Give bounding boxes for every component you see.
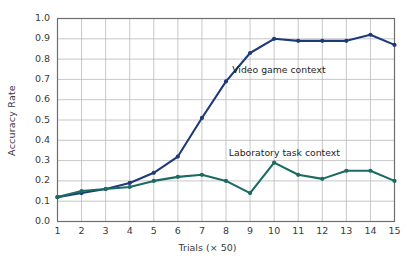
x-tick-label: 7 xyxy=(191,225,213,236)
x-tick-label: 8 xyxy=(215,225,237,236)
y-tick-label: 0.1 xyxy=(20,195,50,206)
y-tick-label: 0.0 xyxy=(20,215,50,226)
x-tick-label: 9 xyxy=(239,225,261,236)
x-tick-label: 12 xyxy=(311,225,333,236)
x-tick-label: 14 xyxy=(359,225,381,236)
y-tick-label: 0.2 xyxy=(20,174,50,185)
x-tick-label: 11 xyxy=(287,225,309,236)
grid-lines xyxy=(58,19,395,222)
x-tick-label: 15 xyxy=(384,225,406,236)
x-tick-label: 3 xyxy=(95,225,117,236)
x-axis-label: Trials (× 50) xyxy=(0,242,415,253)
x-tick-label: 13 xyxy=(335,225,357,236)
y-tick-label: 0.5 xyxy=(20,114,50,125)
series-annotation-label: Laboratory task context xyxy=(229,147,340,158)
x-tick-label: 1 xyxy=(47,225,69,236)
y-tick-label: 0.6 xyxy=(20,93,50,104)
y-tick-label: 0.3 xyxy=(20,154,50,165)
x-tick-label: 6 xyxy=(167,225,189,236)
y-tick-label: 0.4 xyxy=(20,134,50,145)
x-tick-label: 4 xyxy=(119,225,141,236)
y-tick-label: 0.8 xyxy=(20,53,50,64)
accuracy-rate-line-chart: Accuracy Rate Trials (× 50) 0.00.10.20.3… xyxy=(0,0,415,264)
y-tick-label: 0.7 xyxy=(20,73,50,84)
x-tick-label: 10 xyxy=(263,225,285,236)
x-tick-label: 5 xyxy=(143,225,165,236)
y-tick-label: 0.9 xyxy=(20,32,50,43)
x-tick-label: 2 xyxy=(71,225,93,236)
y-tick-label: 1.0 xyxy=(20,12,50,23)
series-annotation-label: Video game context xyxy=(232,64,325,75)
